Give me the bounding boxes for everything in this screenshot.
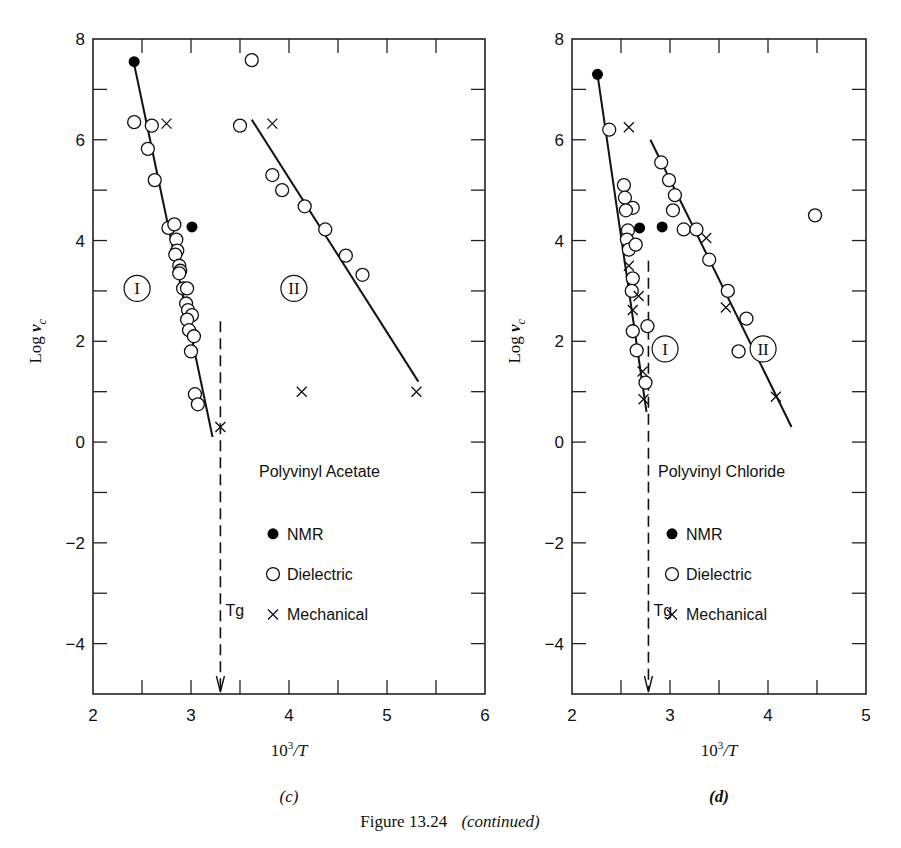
data-point-dielectric xyxy=(319,223,332,236)
panel-label: (d) xyxy=(709,787,729,806)
x-tick-label: 3 xyxy=(665,706,674,725)
legend-item-nmr: NMR xyxy=(667,526,723,543)
region-label: II xyxy=(757,340,769,359)
data-point-nmr xyxy=(657,221,668,232)
legend-item-mechanical: Mechanical xyxy=(667,606,767,623)
figure-caption-note: (continued) xyxy=(461,812,540,831)
y-tick-label: 0 xyxy=(555,433,564,452)
legend-label: Dielectric xyxy=(287,566,353,583)
data-point-dielectric xyxy=(234,119,247,132)
data-point-dielectric xyxy=(809,209,822,222)
data-point-dielectric xyxy=(266,169,279,182)
chart-title: Polyvinyl Acetate xyxy=(259,463,380,480)
data-point-mechanical xyxy=(411,387,421,397)
legend-item-dielectric: Dielectric xyxy=(267,566,353,583)
data-point-dielectric xyxy=(191,398,204,411)
data-point-dielectric xyxy=(617,179,630,192)
chart-title: Polyvinyl Chloride xyxy=(658,463,785,480)
data-point-dielectric xyxy=(128,116,141,129)
data-point-dielectric xyxy=(641,320,654,333)
data-point-dielectric xyxy=(663,174,676,187)
figure-caption-label: Figure 13.24 xyxy=(360,812,447,831)
data-point-nmr xyxy=(592,69,603,80)
legend-label: NMR xyxy=(686,526,722,543)
data-point-mechanical xyxy=(162,119,172,129)
x-tick-label: 2 xyxy=(567,706,576,725)
legend-label: Mechanical xyxy=(686,606,767,623)
data-point-dielectric xyxy=(245,54,258,67)
data-point-dielectric xyxy=(740,312,753,325)
y-tick-label: 8 xyxy=(76,30,85,49)
data-point-dielectric xyxy=(732,345,745,358)
y-tick-label: 6 xyxy=(76,131,85,150)
legend-item-dielectric: Dielectric xyxy=(666,566,752,583)
y-tick-label: −2 xyxy=(545,534,564,553)
x-tick-label: 4 xyxy=(763,706,772,725)
mechanical-marker-icon xyxy=(268,609,278,619)
data-point-dielectric xyxy=(629,238,642,251)
fit-line-ii xyxy=(252,120,419,382)
legend-label: NMR xyxy=(287,526,323,543)
y-tick-label: −4 xyxy=(66,635,85,654)
legend-label: Mechanical xyxy=(287,606,368,623)
figure-canvas: 2345686420−2−4103/TLog νc(c)TgIIIPolyvin… xyxy=(0,0,901,848)
y-axis-title: Log νc xyxy=(505,318,528,363)
dielectric-marker-icon xyxy=(267,568,280,581)
y-tick-label: 4 xyxy=(555,232,564,251)
data-point-dielectric xyxy=(141,142,154,155)
data-point-dielectric xyxy=(668,189,681,202)
x-tick-label: 2 xyxy=(88,706,97,725)
y-tick-label: 4 xyxy=(76,232,85,251)
plot-frame xyxy=(93,39,485,694)
y-tick-label: 0 xyxy=(76,433,85,452)
data-point-dielectric xyxy=(721,284,734,297)
data-point-dielectric xyxy=(187,330,200,343)
data-point-dielectric xyxy=(625,284,638,297)
data-point-dielectric xyxy=(690,223,703,236)
region-label: I xyxy=(662,340,668,359)
data-point-mechanical xyxy=(701,233,711,243)
x-tick-label: 6 xyxy=(480,706,489,725)
data-point-dielectric xyxy=(298,200,311,213)
dielectric-marker-icon xyxy=(666,568,679,581)
data-point-nmr xyxy=(129,56,140,67)
data-point-dielectric xyxy=(639,376,652,389)
y-tick-label: −4 xyxy=(545,635,564,654)
data-point-dielectric xyxy=(626,272,639,285)
plot-frame xyxy=(572,39,866,694)
y-tick-label: 6 xyxy=(555,131,564,150)
data-point-nmr xyxy=(634,222,645,233)
data-point-dielectric xyxy=(356,268,369,281)
y-tick-label: 2 xyxy=(76,332,85,351)
data-point-dielectric xyxy=(655,156,668,169)
region-label: I xyxy=(134,279,140,298)
data-point-mechanical xyxy=(267,119,277,129)
y-tick-label: −2 xyxy=(66,534,85,553)
x-tick-label: 5 xyxy=(861,706,870,725)
data-point-dielectric xyxy=(276,184,289,197)
data-point-dielectric xyxy=(619,204,632,217)
region-label: II xyxy=(288,279,300,298)
y-tick-label: 8 xyxy=(555,30,564,49)
nmr-marker-icon xyxy=(667,528,678,539)
data-point-dielectric xyxy=(603,123,616,136)
data-point-dielectric xyxy=(626,325,639,338)
data-point-dielectric xyxy=(666,204,679,217)
data-point-mechanical xyxy=(721,303,731,313)
panel-label: (c) xyxy=(280,787,299,806)
legend-label: Dielectric xyxy=(686,566,752,583)
data-point-dielectric xyxy=(168,218,181,231)
data-point-dielectric xyxy=(677,223,690,236)
data-point-dielectric xyxy=(630,344,643,357)
data-point-mechanical xyxy=(297,387,307,397)
x-axis-title: 103/T xyxy=(701,739,739,760)
y-tick-label: 2 xyxy=(555,332,564,351)
data-point-dielectric xyxy=(181,282,194,295)
panel-c-polyvinyl-acetate: 2345686420−2−4103/TLog νc(c)TgIIIPolyvin… xyxy=(26,30,490,806)
x-tick-label: 3 xyxy=(186,706,195,725)
data-point-dielectric xyxy=(703,253,716,266)
nmr-marker-icon xyxy=(268,528,279,539)
data-point-dielectric xyxy=(145,119,158,132)
data-point-dielectric xyxy=(185,345,198,358)
data-point-mechanical xyxy=(638,367,648,377)
